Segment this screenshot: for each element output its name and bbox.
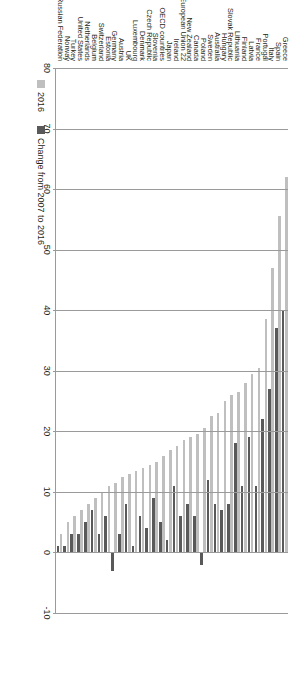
bar-row [63,68,70,613]
tickmark-60 [53,189,58,190]
bar-change [255,486,258,553]
bar-2016 [285,177,288,552]
tickmark-30 [53,371,58,372]
bar-row [247,68,254,613]
legend-swatch-icon [37,80,45,88]
bar-2016 [251,374,254,553]
bar-row [179,68,186,613]
bar-2016 [114,483,117,553]
bar-row [281,68,288,613]
bar-change [214,504,217,552]
bar-chart: GreeceSpainItalyPortugalFranceLatviaFinl… [0,0,296,683]
bar-row [240,68,247,613]
bar-change [173,486,176,553]
bar-2016 [149,465,152,553]
bar-row [124,68,131,613]
bar-2016 [128,474,131,553]
bar-change [98,534,101,552]
gridline-60 [56,189,288,190]
bar-row [172,68,179,613]
tickmark-10 [53,492,58,493]
bar-change [159,522,162,552]
bar-change [139,516,142,552]
bar-row [111,68,118,613]
bar-change [179,516,182,552]
bar-2016 [162,456,165,553]
bar-row [83,68,90,613]
bar-row [56,68,63,613]
category-label: Russian Federation [56,0,63,61]
bar-change [104,516,107,552]
bar-row [90,68,97,613]
bar-row [227,68,234,613]
bar-2016 [74,516,77,552]
legend-item[interactable]: 2016 [36,80,46,112]
bar-row [186,68,193,613]
tick-label: 80 [42,63,52,73]
tickmark-80 [53,68,58,69]
bar-2016 [203,428,206,552]
bar-row [165,68,172,613]
gridline-70 [56,129,288,130]
bar-2016 [135,471,138,553]
bar-2016 [183,440,186,552]
tickmark-40 [53,310,58,311]
gridline-30 [56,371,288,372]
bar-row [206,68,213,613]
bar-change [145,528,148,552]
bar-change [77,534,80,552]
bar-row [192,68,199,613]
bar-2016 [265,319,268,552]
tick-label: 30 [42,366,52,376]
legend-label: Change from 2007 to 2016 [36,138,46,245]
bar-change [111,552,114,570]
bar-2016 [60,534,63,552]
gridline-80 [56,68,288,69]
bar-change [70,534,73,552]
bar-2016 [169,450,172,553]
legend-item[interactable]: Change from 2007 to 2016 [36,126,46,245]
bar-2016 [176,446,179,552]
bar-2016 [80,510,83,552]
bar-change [275,328,278,552]
bar-change [220,510,223,552]
bar-change [207,480,210,553]
tickmark-20 [53,431,58,432]
bar-change [193,516,196,552]
bar-row [274,68,281,613]
bar-row [233,68,240,613]
bar-row [145,68,152,613]
bar-row [268,68,275,613]
plot-area [56,68,288,613]
bar-2016 [196,434,199,552]
bar-2016 [94,498,97,553]
bar-row [70,68,77,613]
bar-2016 [237,392,240,552]
bar-change [234,443,237,552]
bar-change [186,504,189,552]
legend-label: 2016 [36,92,46,112]
bar-row [261,68,268,613]
gridline-10 [56,492,288,493]
bar-2016 [258,368,261,553]
bar-2016 [155,462,158,553]
bar-change [125,504,128,552]
bar-row [117,68,124,613]
bar-row [138,68,145,613]
bar-2016 [87,504,90,552]
bar-row [199,68,206,613]
bar-row [213,68,220,613]
tickmark--10 [53,613,58,614]
bar-2016 [101,492,104,553]
bar-change [84,522,87,552]
bar-2016 [142,468,145,553]
bar-change [152,498,155,553]
tick-label: 40 [42,305,52,315]
tick-label: 0 [42,550,52,555]
bar-2016 [278,216,281,552]
bar-change [91,510,94,552]
bar-2016 [67,522,70,552]
bar-row [158,68,165,613]
tickmark-70 [53,129,58,130]
bar-2016 [230,395,233,552]
